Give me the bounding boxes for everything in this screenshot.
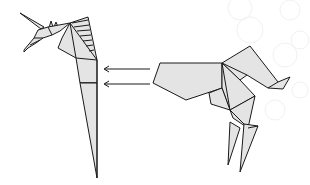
leg-lower-1 [228,122,240,165]
horn [20,13,44,29]
leg-lower-2 [240,124,258,172]
unicorn-head-neck-model [20,13,97,178]
neck-point [80,83,97,178]
unicorn-body-model [153,46,290,172]
arrows [104,66,150,87]
origami-diagram [0,0,310,185]
arrow-left-icon [104,66,150,72]
arrow-left-icon [104,81,150,87]
